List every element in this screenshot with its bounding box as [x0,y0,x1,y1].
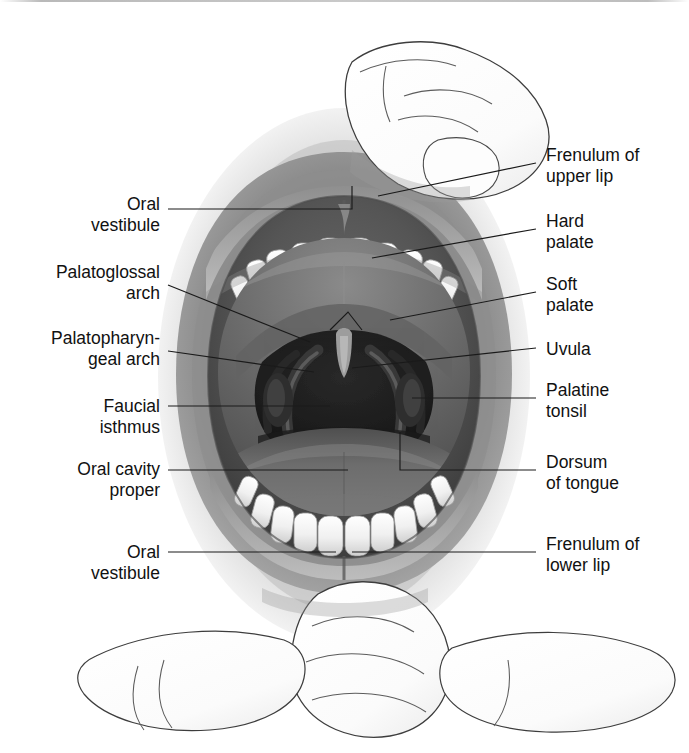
anatomical-figure: Oral vestibule Palatoglossal arch Palato… [0,0,689,753]
label-frenulum-upper-lip: Frenulum of upper lip [546,145,689,187]
thumb-retracting-upper-lip [345,42,549,203]
label-frenulum-lower-lip: Frenulum of lower lip [546,534,689,576]
label-faucial-isthmus: Faucial isthmus [0,396,160,438]
label-palatopharyngeal-arch: Palatopharyn- geal arch [0,328,160,370]
label-uvula: Uvula [546,339,689,360]
label-soft-palate: Soft palate [546,274,689,316]
finger-retracting-lower-lip [78,582,675,738]
label-palatine-tonsil: Palatine tonsil [546,380,689,422]
oral-cavity-illustration [0,0,689,753]
label-oral-cavity-proper: Oral cavity proper [0,459,160,501]
label-oral-vestibule-lower: Oral vestibule [0,542,160,584]
label-oral-vestibule-upper: Oral vestibule [0,194,160,236]
label-hard-palate: Hard palate [546,211,689,253]
label-dorsum-of-tongue: Dorsum of tongue [546,452,689,494]
label-palatoglossal-arch: Palatoglossal arch [0,262,160,304]
